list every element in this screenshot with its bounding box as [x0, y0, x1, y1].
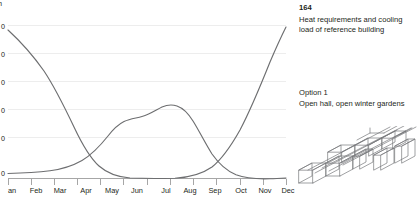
- x-axis-ticks: [9, 179, 287, 185]
- x-tick-label-mar: Mar: [54, 186, 67, 195]
- figure-caption: Heat requirements and cooling load of re…: [299, 15, 415, 36]
- chart-canvas: [0, 0, 290, 201]
- x-tick-label-jun: Jun: [131, 186, 143, 195]
- option-description: Open hall, open winter gardens: [299, 99, 419, 109]
- x-tick-label-dec: Dec: [281, 186, 294, 195]
- x-tick-label-nov: Nov: [258, 186, 271, 195]
- isometric-massing-svg: [295, 126, 417, 198]
- option-label: Option 1: [299, 88, 328, 97]
- x-tick-label-oct: Oct: [235, 186, 247, 195]
- x-tick-label-feb: Feb: [30, 186, 43, 195]
- iso-circulation-spine: [308, 126, 416, 173]
- x-tick-label-apr: Apr: [80, 186, 92, 195]
- series-cooling-load-line: [8, 105, 286, 179]
- x-tick-label-sep: Sep: [208, 186, 221, 195]
- iso-right-block-group: [374, 139, 415, 170]
- x-tick-label-may: May: [105, 186, 119, 195]
- isometric-building-diagram: [295, 126, 417, 198]
- x-tick-label-jan: an: [8, 186, 16, 195]
- figure-number: 164: [299, 3, 312, 12]
- series-heat-requirement-line: [8, 27, 286, 178]
- x-tick-label-jul: Jul: [161, 186, 170, 195]
- chart-panel: /h 0 0 0 0 0 0: [0, 0, 290, 201]
- x-tick-label-aug: Aug: [183, 186, 196, 195]
- caption-column: 164 Heat requirements and cooling load o…: [299, 0, 415, 201]
